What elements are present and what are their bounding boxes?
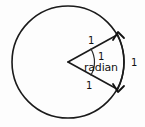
radius-lower-label: 1 xyxy=(86,81,92,91)
radius-upper-label: 1 xyxy=(88,36,94,46)
radian-diagram: 1 1 1 radian 1 xyxy=(0,0,145,127)
arc-length-label: 1 xyxy=(131,58,137,68)
arc-length-curve xyxy=(117,33,124,91)
angle-unit-label: radian xyxy=(84,62,118,73)
diagram-canvas xyxy=(0,0,145,127)
